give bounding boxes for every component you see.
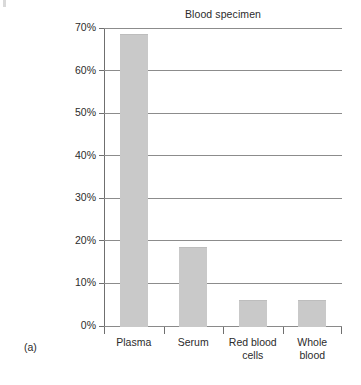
bar-whole-blood [298,300,326,327]
y-tick-label: 50% [56,106,96,118]
y-tick-mark [99,198,104,199]
panel-caption: (a) [24,341,37,353]
scan-artifact [3,0,6,7]
y-tick-mark [99,70,104,71]
x-tick-label-plasma: Plasma [104,336,164,349]
x-tick-label-line: cells [223,349,283,362]
y-tick-mark [99,240,104,241]
figure-panel: Blood specimen 0%10%20%30%40%50%60%70% P… [0,0,361,385]
x-tick-label-whole-blood: Wholeblood [283,336,343,362]
chart-title: Blood specimen [104,8,342,20]
y-tick-label: 60% [56,64,96,76]
y-tick-mark [99,155,104,156]
y-tick-label: 0% [56,319,96,331]
plot-area [104,28,342,326]
y-tick-mark [99,283,104,284]
y-tick-label: 30% [56,191,96,203]
x-tick-mark [104,327,105,334]
x-tick-mark [341,327,342,334]
bar-red-blood-cells [239,300,267,327]
x-tick-mark [223,327,224,334]
y-axis-tick-labels: 0%10%20%30%40%50%60%70% [54,0,96,385]
x-tick-label-serum: Serum [164,336,224,349]
y-tick-label: 70% [56,21,96,33]
x-tick-label-line: blood [283,349,343,362]
x-tick-label-red-blood-cells: Red bloodcells [223,336,283,362]
gridline-70% [104,28,342,29]
bar-serum [179,247,207,327]
y-tick-mark [99,28,104,29]
x-tick-label-line: Whole [283,336,343,349]
x-tick-mark [283,327,284,334]
x-tick-label-line: Red blood [223,336,283,349]
x-tick-mark [164,327,165,334]
x-tick-label-line: Serum [164,336,224,349]
bar-plasma [120,34,148,327]
y-tick-label: 20% [56,234,96,246]
x-tick-label-line: Plasma [104,336,164,349]
y-tick-mark [99,113,104,114]
y-tick-label: 10% [56,276,96,288]
y-tick-label: 40% [56,149,96,161]
